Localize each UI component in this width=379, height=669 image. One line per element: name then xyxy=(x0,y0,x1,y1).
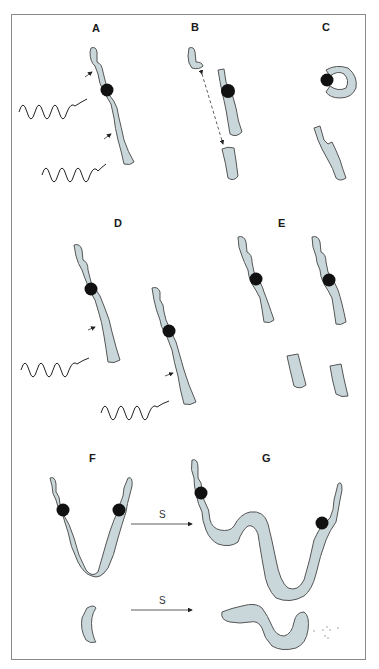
centromere xyxy=(250,273,263,286)
centromere xyxy=(163,325,176,338)
panel-g xyxy=(191,460,342,650)
panel-f xyxy=(50,478,132,643)
panel-label-g: G xyxy=(262,452,271,464)
centromere xyxy=(57,504,70,517)
centromere xyxy=(323,274,336,287)
panel-label-a: A xyxy=(92,22,100,34)
centromere xyxy=(85,283,98,296)
panel-label-d: D xyxy=(114,217,122,229)
panel-a xyxy=(19,48,134,183)
arrow-f-to-g-bottom: S xyxy=(131,595,192,610)
fragment-dots xyxy=(313,626,339,639)
arrow-f-to-g-top: S xyxy=(131,509,192,524)
panel-e xyxy=(238,237,348,397)
panel-label-b: B xyxy=(191,21,199,33)
panel-b xyxy=(188,48,242,180)
panel-c xyxy=(314,66,356,180)
centromere xyxy=(321,74,334,87)
panel-label-f: F xyxy=(89,452,96,464)
panel-label-e: E xyxy=(278,217,285,229)
arrow-label-s: S xyxy=(159,509,166,520)
centromere xyxy=(113,504,126,517)
chromosome-diagram: A B C D E F G xyxy=(0,0,379,669)
panel-label-c: C xyxy=(322,21,330,33)
centromere xyxy=(221,84,235,98)
arrow-label-s: S xyxy=(159,595,166,606)
panel-d xyxy=(21,245,196,420)
centromere xyxy=(101,84,114,97)
centromere xyxy=(316,517,329,530)
centromere xyxy=(195,487,208,500)
